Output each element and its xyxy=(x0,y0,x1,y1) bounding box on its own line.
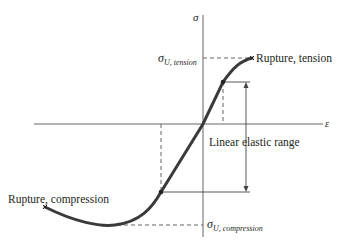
rupture-compression-label: Rupture, compression xyxy=(8,193,109,206)
linear-elastic-range-label: Linear elastic range xyxy=(209,136,300,149)
rupture-tension-label: Rupture, tension xyxy=(256,52,332,65)
elastic-range-arrow-down-icon xyxy=(244,186,249,192)
sigma-ultimate-tension-label: σU, tension xyxy=(158,51,197,67)
stress-strain-diagram: σ ε σU, tension σU, compression Rupture,… xyxy=(0,0,338,244)
compression-subscript: U, compression xyxy=(213,224,263,233)
lower-elastic-limit-point xyxy=(159,190,164,195)
sigma-ultimate-compression-label: σU, compression xyxy=(207,217,263,233)
stress-axis-label: σ xyxy=(193,11,199,23)
strain-axis-label: ε xyxy=(325,118,329,129)
upper-elastic-limit-point xyxy=(221,80,226,85)
tension-subscript: U, tension xyxy=(164,58,197,67)
elastic-range-arrow-up-icon xyxy=(244,82,249,88)
